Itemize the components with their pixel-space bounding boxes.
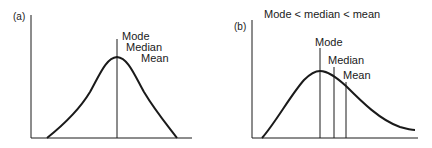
- panel-b-skewed-curve: [262, 71, 415, 138]
- panel-b-title: Mode < median < mean: [264, 8, 380, 20]
- panel-b-mode-label: Mode: [315, 36, 343, 48]
- panel-b-mean-label: Mean: [343, 69, 371, 81]
- panel-a-symmetric-curve: [47, 57, 177, 138]
- panel-a-graph: [31, 15, 192, 138]
- panel-b-median-label: Median: [328, 54, 364, 66]
- panel-a-mean-label: Mean: [141, 52, 169, 64]
- panel-a-label: (a): [13, 11, 25, 23]
- panel-b-label: (b): [234, 21, 246, 33]
